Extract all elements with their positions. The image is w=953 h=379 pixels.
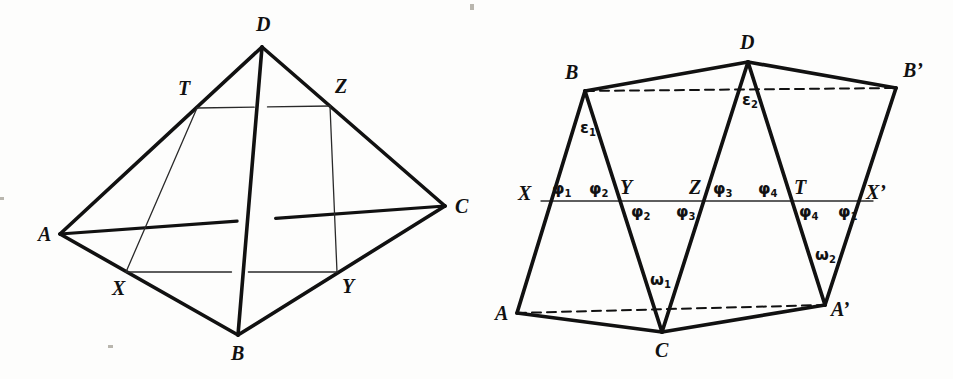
- angle-label-phi4-top-mid: φ4: [758, 181, 777, 197]
- angle-label-phi1-top-left: φ1: [552, 181, 571, 197]
- speck-top: [470, 4, 474, 10]
- left-vertex-label-y: Y: [342, 276, 354, 296]
- left-section-edge-T-Z-part2: [267, 106, 330, 107]
- angle-label-phi3-top-mid: φ3: [713, 181, 732, 197]
- left-edge-A-D: [60, 47, 262, 234]
- right-diagram-group: [517, 62, 896, 332]
- right-edge-C-D: [662, 62, 748, 332]
- left-vertex-label-b: B: [231, 343, 244, 363]
- right-vertex-label-z: Z: [689, 177, 701, 197]
- right-edge-D-Bprime: [748, 62, 896, 88]
- left-edge-B-D: [238, 47, 262, 335]
- right-vertex-label-x: X: [518, 183, 531, 203]
- right-edge-B-D: [585, 62, 748, 91]
- right-vertex-label-t: T: [794, 177, 806, 197]
- left-edge-A-B: [60, 234, 238, 335]
- right-vertex-label-bprime: B’: [903, 60, 923, 80]
- angle-label-phi3-bottom-mid: φ3: [676, 204, 695, 220]
- right-vertex-label-a: A: [495, 303, 508, 323]
- angle-label-omega1: ω1: [650, 272, 671, 288]
- left-section-edge-T-Z-part1: [197, 107, 254, 108]
- left-section-edge-X-T: [126, 108, 197, 272]
- left-edge-A-C-part2: [276, 206, 445, 218]
- left-vertex-label-c: C: [455, 196, 468, 216]
- angle-label-phi1-bottom-right: φ1: [838, 204, 857, 220]
- angle-label-phi2-bottom-left: φ2: [631, 204, 650, 220]
- right-vertex-label-b: B: [565, 62, 578, 82]
- right-edge-A-C: [517, 313, 662, 332]
- left-vertex-label-a: A: [38, 224, 51, 244]
- left-edge-D-C: [262, 47, 445, 206]
- angle-label-phi2-top-left: φ2: [589, 181, 608, 197]
- figure-root: ABCDXYZTABCDA’B’XYZTX’φ1φ2φ3φ4φ2φ3φ4φ1ε1…: [0, 0, 953, 379]
- figure-canvas: [0, 0, 953, 379]
- angle-label-epsilon1: ε1: [580, 120, 596, 136]
- left-edge-B-C: [238, 206, 445, 335]
- angle-label-omega2: ω2: [815, 247, 836, 263]
- right-vertex-label-xprime: X’: [866, 182, 886, 202]
- left-vertex-label-t: T: [178, 78, 190, 98]
- right-vertex-label-y: Y: [620, 177, 632, 197]
- right-vertex-label-aprime: A’: [831, 299, 850, 319]
- left-edge-A-C-part1: [60, 221, 237, 234]
- left-vertex-label-d: D: [256, 14, 270, 34]
- left-vertex-label-z: Z: [335, 76, 347, 96]
- speck-left-mid: [0, 197, 4, 200]
- angle-label-epsilon2: ε2: [742, 92, 758, 108]
- left-vertex-label-x: X: [112, 278, 125, 298]
- right-vertex-label-d: D: [740, 32, 754, 52]
- angle-label-phi4-bottom-right: φ4: [799, 204, 818, 220]
- speck-bottom-left: [108, 345, 113, 348]
- left-section-edge-Y-Z: [330, 106, 337, 272]
- right-vertex-label-c: C: [655, 340, 668, 360]
